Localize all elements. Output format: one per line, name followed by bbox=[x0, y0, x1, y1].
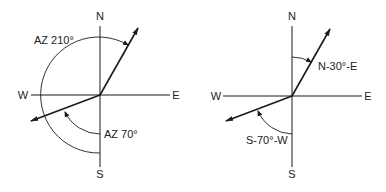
s70w-arc bbox=[258, 111, 292, 134]
n30e-label: N-30°-E bbox=[318, 60, 357, 72]
south-label: S bbox=[96, 168, 103, 180]
sw-direction-arrow bbox=[31, 95, 100, 121]
azimuth-bearing-figure: N S W E AZ 210° AZ 70° N S W E N-30°-E S… bbox=[0, 0, 386, 192]
west-label: W bbox=[18, 89, 29, 101]
az-70-label: AZ 70° bbox=[104, 128, 138, 140]
az-210-label: AZ 210° bbox=[34, 34, 74, 46]
south-label: S bbox=[288, 168, 295, 180]
west-label: W bbox=[211, 90, 222, 102]
north-label: N bbox=[288, 10, 296, 22]
s70w-label: S-70°-W bbox=[246, 134, 288, 146]
east-label: E bbox=[172, 89, 179, 101]
north-label: N bbox=[96, 10, 104, 22]
azimuth-diagram: N S W E AZ 210° AZ 70° bbox=[18, 10, 180, 180]
bearing-diagram: N S W E N-30°-E S-70°-W bbox=[211, 10, 372, 180]
sw-direction-arrow bbox=[226, 96, 292, 121]
n30e-arc bbox=[292, 57, 311, 62]
east-label: E bbox=[364, 90, 371, 102]
az-70-arc bbox=[65, 112, 100, 134]
ne-direction-arrow bbox=[100, 28, 138, 95]
